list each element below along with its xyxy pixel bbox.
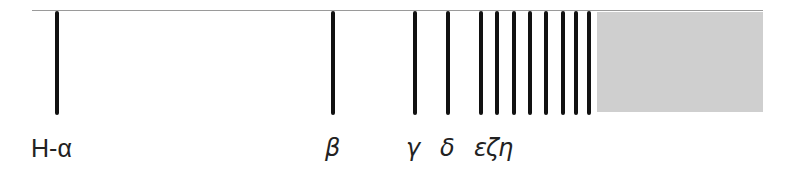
label-epsilon-zeta-eta: εζη xyxy=(474,134,512,162)
continuum-region xyxy=(597,12,763,112)
spectral-line xyxy=(587,11,591,115)
label-gamma: γ xyxy=(406,134,420,162)
spectral-line xyxy=(512,11,516,115)
spectral-line xyxy=(574,11,578,115)
label-beta: β xyxy=(325,134,340,162)
spectral-line xyxy=(413,11,417,115)
label-delta: δ xyxy=(440,134,455,162)
spectral-line xyxy=(479,11,483,115)
spectral-line xyxy=(331,11,335,115)
label-h-alpha: H-α xyxy=(31,134,72,162)
top-axis-line xyxy=(32,10,763,11)
spectral-line xyxy=(528,11,532,115)
spectral-line xyxy=(495,11,499,115)
spectral-line xyxy=(561,11,565,115)
spectral-line xyxy=(446,11,450,115)
spectral-line xyxy=(544,11,548,115)
spectral-line xyxy=(55,11,59,115)
